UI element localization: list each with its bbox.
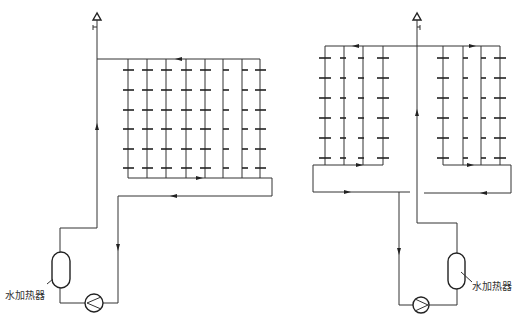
flow-arrow-right-icon xyxy=(467,163,474,167)
flow-arrow-left-icon xyxy=(175,57,182,61)
left-system xyxy=(47,13,272,312)
right-system xyxy=(313,13,511,313)
return-down-pipe xyxy=(399,192,413,305)
branch-stubs xyxy=(123,70,266,168)
branch-stubs xyxy=(319,58,506,158)
flow-arrow-down-icon xyxy=(397,248,401,255)
supply-main-riser xyxy=(417,20,457,253)
flow-arrow-up-icon xyxy=(95,123,99,130)
water-heater xyxy=(52,252,70,288)
flow-arrow-right-icon xyxy=(196,176,203,180)
return-collector xyxy=(103,178,272,303)
flow-arrow-right-icon xyxy=(344,190,351,194)
water-heater xyxy=(448,253,465,289)
air-vent-icon xyxy=(413,13,421,20)
air-vent-icon xyxy=(93,13,101,20)
left-heater-label: 水加热器 xyxy=(5,287,45,302)
flow-arrow-right-icon xyxy=(469,44,476,48)
right-heater-label: 水加热器 xyxy=(472,278,512,293)
flow-arrow-left-icon xyxy=(352,44,359,48)
right-riser-group xyxy=(443,46,500,165)
flow-arrow-down-icon xyxy=(116,244,120,251)
flow-arrow-right-icon xyxy=(356,163,363,167)
circulation-pump-icon xyxy=(413,297,429,313)
right-return-collector xyxy=(424,165,511,193)
supply-main-riser xyxy=(60,20,97,252)
flow-arrow-left-icon xyxy=(480,191,487,195)
circulation-pump-icon xyxy=(85,294,103,312)
diagram-canvas xyxy=(0,0,521,326)
left-return-collector xyxy=(313,165,410,192)
riser-group xyxy=(128,59,260,178)
left-riser-group xyxy=(325,46,383,165)
flow-arrow-left-icon xyxy=(170,194,177,198)
flow-arrow-up-icon xyxy=(415,109,419,116)
